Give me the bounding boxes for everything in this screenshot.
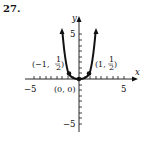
x-tick-pos5: 5 xyxy=(121,84,126,94)
y-axis-label: y xyxy=(71,13,77,23)
x-arrow-icon xyxy=(132,77,138,82)
y-tick-neg5: −5 xyxy=(63,119,76,129)
point-1-half xyxy=(87,71,92,76)
point-neg1-half xyxy=(67,71,72,76)
right-point-label: (1, 1 2 ) xyxy=(95,55,117,72)
curve-right-arrow-icon xyxy=(94,28,99,34)
x-tick-neg5: −5 xyxy=(24,84,37,94)
y-arrow-icon xyxy=(77,16,82,22)
point-origin xyxy=(77,77,82,82)
svg-text:(−1,: (−1, xyxy=(32,60,49,69)
origin-label: (0, 0) xyxy=(54,85,76,94)
svg-text:(1,: (1, xyxy=(95,60,106,69)
curve-left-arrow-icon xyxy=(60,28,65,34)
svg-text:): ) xyxy=(61,60,64,69)
left-point-label: (−1, 1 2 ) xyxy=(32,55,64,72)
svg-text:): ) xyxy=(114,60,117,69)
graph: y x −5 5 5 −5 (0, 0) (−1, 1 2 ) (1, 1 2 … xyxy=(0,0,147,142)
y-tick-pos5: 5 xyxy=(70,29,75,39)
x-axis-label: x xyxy=(135,67,140,77)
